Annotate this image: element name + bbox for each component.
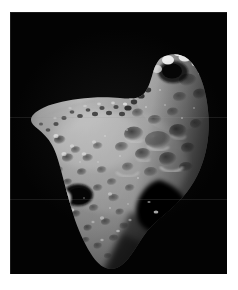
page-root (0, 0, 238, 290)
dark-crater (59, 182, 96, 208)
asteroid-photo (10, 12, 227, 274)
asteroid-rendering (10, 12, 227, 274)
asteroid-body (10, 12, 227, 274)
asteroid-surface (10, 12, 227, 274)
